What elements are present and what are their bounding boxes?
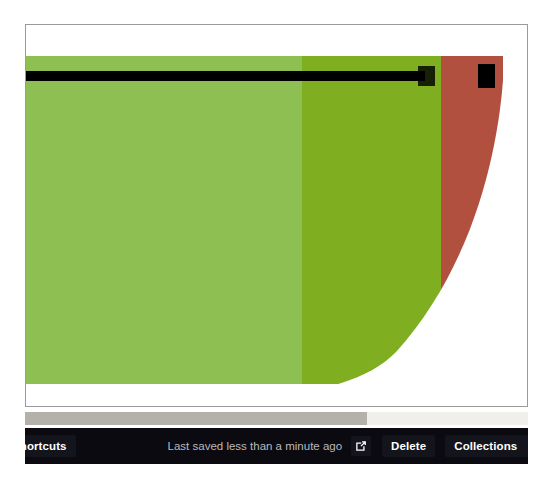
horizontal-scrollbar-track[interactable] [25, 412, 528, 425]
collections-control: Collections [445, 435, 528, 457]
measure-bar [26, 71, 425, 81]
measure-bar-cap [418, 66, 435, 86]
last-saved-status: Last saved less than a minute ago [168, 440, 343, 452]
external-link-icon[interactable] [351, 436, 371, 456]
chevron-down-icon[interactable] [526, 436, 528, 456]
shortcuts-button[interactable]: Shortcuts [25, 435, 76, 457]
collections-button[interactable]: Collections [445, 435, 526, 457]
band-poor [441, 54, 503, 384]
bullet-graph [26, 25, 503, 384]
target-marker [478, 64, 495, 88]
delete-button[interactable]: Delete [382, 435, 435, 457]
chart-viewport[interactable] [26, 25, 527, 406]
band-good [26, 54, 302, 384]
chart-canvas-panel[interactable] [25, 24, 528, 407]
band-satisfactory [302, 54, 441, 384]
bottom-toolbar: Shortcuts Last saved less than a minute … [25, 428, 528, 464]
horizontal-scrollbar-thumb[interactable] [25, 412, 367, 425]
